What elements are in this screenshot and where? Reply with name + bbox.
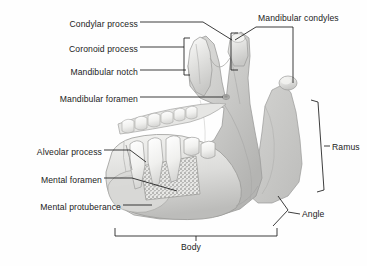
label-coronoid-process: Coronoid process xyxy=(24,44,138,54)
label-mental-protuberance: Mental protuberance xyxy=(8,202,121,212)
label-body: Body xyxy=(181,242,201,252)
bracket-angle-tick xyxy=(288,212,300,214)
mandible-bone xyxy=(106,32,302,220)
label-ramus: Ramus xyxy=(332,142,360,152)
label-angle: Angle xyxy=(302,209,324,219)
mandibular-condyle-far xyxy=(279,76,297,90)
label-mandibular-condyles: Mandibular condyles xyxy=(258,13,339,23)
mandible-diagram: Condylar process Coronoid process Mandib… xyxy=(0,0,367,266)
label-mandibular-foramen: Mandibular foramen xyxy=(14,94,138,104)
bracket-ramus xyxy=(311,100,324,192)
label-mandibular-notch: Mandibular notch xyxy=(24,67,138,77)
bracket-body xyxy=(115,228,277,236)
label-alveolar-process: Alveolar process xyxy=(8,147,102,157)
mandible-illustration xyxy=(0,0,367,266)
label-condylar-process: Condylar process xyxy=(24,19,138,29)
label-mental-foramen: Mental foramen xyxy=(8,175,102,185)
mandibular-foramen xyxy=(222,94,229,99)
leader-condylar-process xyxy=(140,22,232,40)
